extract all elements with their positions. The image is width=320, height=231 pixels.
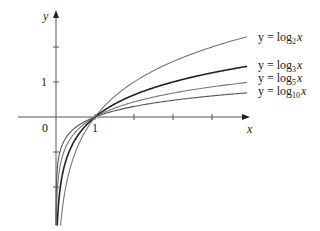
log-functions-chart: 11 y = log2xy = log3xy = log5xy = log10x… (0, 0, 320, 231)
x-axis-arrow-icon (242, 114, 250, 120)
curve-label-log10: y = log10x (258, 84, 307, 100)
x-axis-label: x (246, 122, 253, 136)
y-axis-label: y (42, 9, 49, 23)
origin-label: 0 (42, 121, 48, 135)
curve-label-log2: y = log2x (258, 30, 303, 46)
axes: 11 (18, 10, 250, 225)
x-tick-label: 1 (92, 121, 98, 135)
y-tick-label: 1 (41, 75, 47, 89)
curve-labels: y = log2xy = log3xy = log5xy = log10x (258, 30, 307, 100)
y-axis-arrow-icon (53, 10, 59, 18)
curve-log10 (56, 93, 247, 226)
curve-log3 (57, 66, 247, 225)
curves (56, 37, 247, 226)
curve-log2 (61, 37, 248, 226)
